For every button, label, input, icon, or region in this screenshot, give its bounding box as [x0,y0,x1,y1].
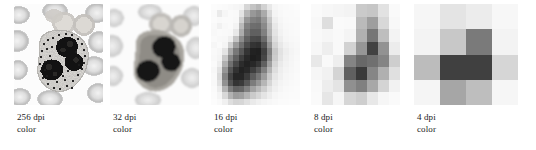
heatmap-cell [244,17,250,23]
heatmap-cell [261,17,267,23]
heatmap-cell [233,61,239,67]
heatmap-cell [250,73,256,79]
heatmap-cell [217,61,223,67]
heatmap-cell [289,4,295,10]
heatmap-cell [239,23,245,29]
heatmap-cell [244,92,250,98]
heatmap-cell [239,10,245,16]
heatmap-cell [256,86,262,92]
heatmap-cell [222,29,228,35]
heatmap-cell [256,80,262,86]
heatmap-cell [217,17,223,23]
heatmap-cell [389,80,400,93]
heatmap-cell [256,10,262,16]
heatmap-cell [233,42,239,48]
heatmap-cell [294,4,300,10]
heatmap-cell [367,55,378,68]
heatmap-cell [367,4,378,17]
heatmap-cell [222,55,228,61]
heatmap-cell [294,86,300,92]
heatmap-cell [244,10,250,16]
heatmap-cell [250,86,256,92]
heatmap-cell [239,4,245,10]
panel-4dpi [414,4,518,105]
heatmap-cell [228,17,234,23]
heatmap-cell [267,42,273,48]
heatmap-cell [356,92,367,105]
heatmap-cell [333,42,344,55]
heatmap-cell [244,73,250,79]
caption-resolution: 8 dpi [314,112,333,124]
heatmap-cell [217,23,223,29]
heatmap-cell [250,99,256,105]
heatmap-cell [440,29,466,54]
heatmap-cell [256,36,262,42]
panel-32dpi [110,4,199,105]
heatmap-cell [261,10,267,16]
heatmap-cell [256,67,262,73]
heatmap-cell [272,42,278,48]
heatmap-cell [272,99,278,105]
heatmap-cell [272,86,278,92]
heatmap-cell [278,29,284,35]
heatmap-cell [283,86,289,92]
caption-mode: color [314,124,333,136]
heatmap-cell [367,80,378,93]
heatmap-cell [244,55,250,61]
heatmap-cell [466,4,492,29]
heatmap-cell [289,86,295,92]
heatmap-cell [250,4,256,10]
heatmap-cell [283,4,289,10]
heatmap-cell [278,92,284,98]
heatmap-cell [222,23,228,29]
heatmap-cell [261,73,267,79]
heatmap-cell [239,42,245,48]
heatmap-cell [272,55,278,61]
heatmap-cell [272,17,278,23]
heatmap-cell [233,73,239,79]
heatmap-cell [228,67,234,73]
heatmap-cell [356,67,367,80]
heatmap-cell [267,86,273,92]
heatmap-cell [322,80,333,93]
heatmap-cell [466,29,492,54]
heatmap-cell [267,73,273,79]
heatmap-cell [222,42,228,48]
caption-8dpi: 8 dpi color [314,112,333,135]
heatmap-cell [294,10,300,16]
heatmap-cell [414,80,440,105]
caption-mode: color [17,124,45,136]
caption-32dpi: 32 dpi color [113,112,136,135]
figure-root: 256 dpi color 32 dpi color 16 dpi color … [0,0,536,150]
heatmap-cell [256,61,262,67]
heatmap-cell [283,42,289,48]
heatmap-cell [367,29,378,42]
heatmap-cell [283,99,289,105]
heatmap-cell [261,42,267,48]
heatmap-cell [283,48,289,54]
heatmap-cell [389,29,400,42]
heatmap-cell [278,67,284,73]
heatmap-cell [211,48,217,54]
heatmap-cell [233,92,239,98]
heatmap-cell [228,4,234,10]
heatmap-cell [378,42,389,55]
heatmap-cell [211,29,217,35]
heatmap-cell [378,67,389,80]
heatmap-cell [492,55,518,80]
heatmap-cell [217,86,223,92]
heatmap-cell [278,99,284,105]
heatmap-cell [250,80,256,86]
heatmap-cell [283,36,289,42]
caption-resolution: 4 dpi [417,112,436,124]
heatmap-cell [228,48,234,54]
heatmap-cell [211,42,217,48]
heatmap-cell [228,99,234,105]
heatmap-cell [233,86,239,92]
heatmap-cell [294,61,300,67]
heatmap-cell [256,23,262,29]
heatmap-cell [278,61,284,67]
heatmap-cell [289,10,295,16]
heatmap-cell [261,55,267,61]
heatmap-cell [414,4,440,29]
